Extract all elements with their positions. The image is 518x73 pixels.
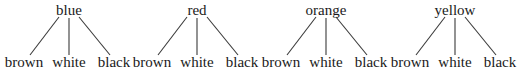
child-node: white (309, 54, 343, 70)
tree-red: redbrownwhiteblack (133, 2, 259, 70)
child-node: black (484, 54, 517, 70)
child-node: white (52, 54, 86, 70)
child-node: black (98, 54, 131, 70)
edge-blue-black (79, 17, 110, 55)
edge-red-black (207, 17, 238, 55)
root-node: orange (306, 2, 347, 18)
tree-diagram: bluebrownwhiteblackredbrownwhiteblackora… (0, 0, 518, 73)
edge-yellow-brown (416, 17, 445, 55)
child-node: white (438, 54, 472, 70)
child-node: black (226, 54, 259, 70)
child-node: brown (262, 54, 301, 70)
edge-blue-brown (30, 17, 59, 55)
root-node: red (187, 2, 207, 18)
child-node: brown (5, 54, 44, 70)
child-node: brown (391, 54, 430, 70)
tree-blue: bluebrownwhiteblack (5, 2, 131, 70)
edge-orange-black (336, 17, 367, 55)
child-node: black (355, 54, 388, 70)
edge-yellow-black (465, 17, 496, 55)
root-node: yellow (435, 2, 476, 18)
edge-red-brown (158, 17, 187, 55)
tree-yellow: yellowbrownwhiteblack (391, 2, 517, 70)
edge-orange-brown (287, 17, 316, 55)
child-node: brown (133, 54, 172, 70)
child-node: white (180, 54, 214, 70)
root-node: blue (56, 2, 82, 18)
tree-orange: orangebrownwhiteblack (262, 2, 388, 70)
